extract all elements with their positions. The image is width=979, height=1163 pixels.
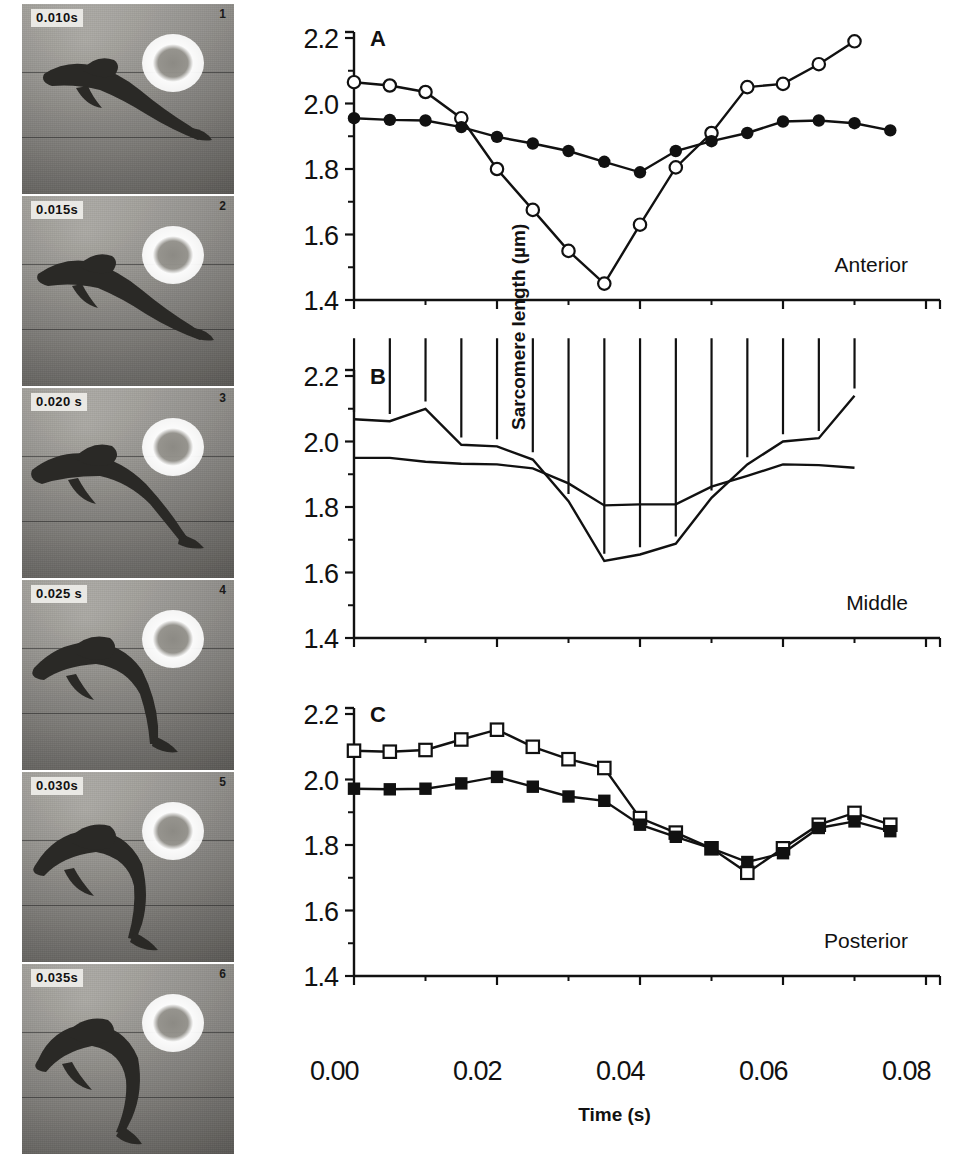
y-tick-label: 1.4 <box>303 286 339 316</box>
x-tick-label: 0.02 <box>453 1056 502 1087</box>
plot-a: 1.41.61.82.02.2AAnterior <box>250 0 979 330</box>
y-tick-label: 2.2 <box>303 700 338 730</box>
frame-number: 2 <box>219 199 226 213</box>
frame-timestamp: 0.030s <box>31 777 83 795</box>
frame-number: 6 <box>219 967 226 981</box>
panel-letter: B <box>370 364 386 389</box>
filmstrip-frame: 0.010s 1 <box>22 4 234 194</box>
y-tick-label: 2.0 <box>303 90 338 120</box>
panel-letter: A <box>370 26 386 51</box>
frame-timestamp: 0.015s <box>31 201 83 219</box>
fish-silhouette <box>22 772 234 962</box>
fish-silhouette <box>22 196 234 386</box>
x-tick-label: 0.06 <box>739 1056 788 1087</box>
x-axis-tick-labels: 0.00 0.02 0.04 0.06 0.08 <box>250 1056 979 1090</box>
frame-timestamp: 0.025 s <box>31 585 87 603</box>
filmstrip: 0.010s 1 0.015s 2 0.020 s 3 <box>22 4 234 1159</box>
fish-silhouette <box>22 388 234 578</box>
y-tick-label: 2.2 <box>303 362 338 392</box>
fish-silhouette <box>22 580 234 770</box>
y-tick-label: 1.6 <box>303 221 338 251</box>
series-line <box>354 730 890 873</box>
y-tick-label: 1.4 <box>303 624 339 654</box>
filmstrip-frame: 0.015s 2 <box>22 196 234 386</box>
region-label: Posterior <box>824 929 908 952</box>
frame-timestamp: 0.010s <box>31 9 83 27</box>
x-tick-label: 0.00 <box>310 1056 359 1087</box>
series-line <box>354 118 890 172</box>
frame-number: 1 <box>219 7 226 21</box>
x-tick-label: 0.08 <box>882 1056 931 1087</box>
panel-posterior: 1.41.61.82.02.2CPosterior <box>250 676 979 1006</box>
fish-silhouette <box>22 4 234 194</box>
y-tick-label: 2.2 <box>303 24 338 54</box>
plot-b: 1.41.61.82.02.2BMiddle <box>250 338 979 668</box>
y-tick-label: 1.6 <box>303 897 338 927</box>
y-tick-label: 1.8 <box>303 831 338 861</box>
frame-number: 4 <box>219 583 226 597</box>
panel-letter: C <box>370 702 386 727</box>
filmstrip-frame: 0.035s 6 <box>22 964 234 1154</box>
panel-anterior: 1.41.61.82.02.2AAnterior <box>250 0 979 330</box>
x-axis-label: Time (s) <box>250 1104 979 1126</box>
frame-number: 3 <box>219 391 226 405</box>
y-tick-label: 1.6 <box>303 559 338 589</box>
y-tick-label: 2.0 <box>303 766 338 796</box>
fish-silhouette <box>22 964 234 1154</box>
x-tick-label: 0.04 <box>596 1056 645 1087</box>
frame-timestamp: 0.020 s <box>31 393 87 411</box>
y-tick-label: 1.8 <box>303 155 338 185</box>
y-tick-label: 2.0 <box>303 428 338 458</box>
filmstrip-frame: 0.020 s 3 <box>22 388 234 578</box>
region-label: Anterior <box>834 253 908 276</box>
frame-number: 5 <box>219 775 226 789</box>
y-tick-label: 1.4 <box>303 962 339 992</box>
y-tick-label: 1.8 <box>303 493 338 523</box>
series-line <box>354 777 890 862</box>
frame-timestamp: 0.035s <box>31 969 83 987</box>
panel-middle: 1.41.61.82.02.2BMiddle <box>250 338 979 668</box>
plot-c: 1.41.61.82.02.2CPosterior <box>250 676 979 1006</box>
filmstrip-frame: 0.025 s 4 <box>22 580 234 770</box>
region-label: Middle <box>846 591 908 614</box>
filmstrip-frame: 0.030s 5 <box>22 772 234 962</box>
chart-area: Sarcomere length (µm) 1.41.61.82.02.2AAn… <box>250 0 979 1163</box>
